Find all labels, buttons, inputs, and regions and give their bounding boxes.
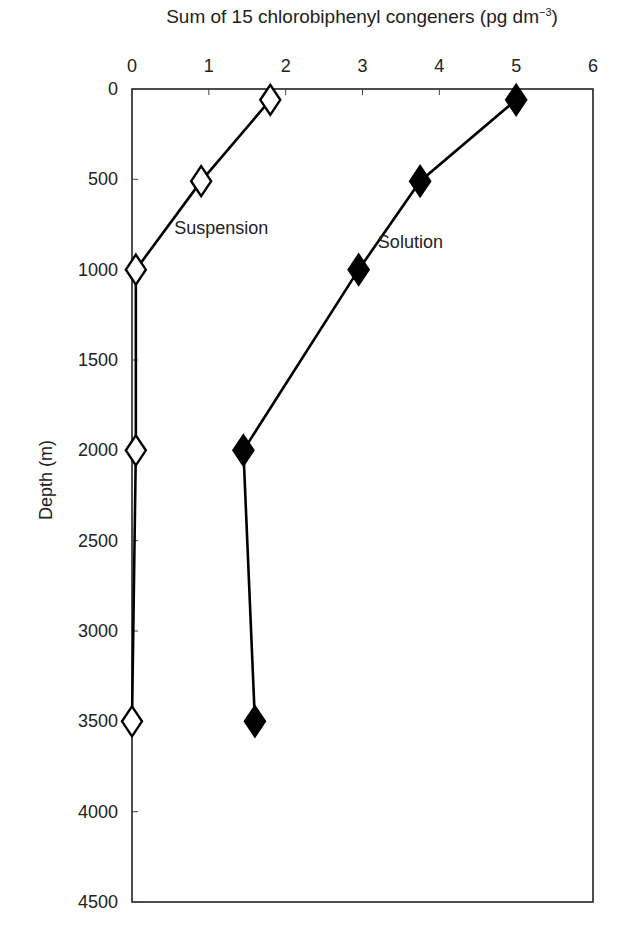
- plot-frame: [132, 89, 593, 902]
- open-diamond-marker: [126, 435, 146, 465]
- series-label: Suspension: [174, 218, 268, 238]
- series-label: Solution: [378, 232, 443, 252]
- x-tick-label: 5: [511, 56, 521, 76]
- series-suspension: Suspension: [122, 85, 280, 736]
- y-tick-label: 3500: [78, 711, 118, 731]
- y-tick-label: 4000: [78, 802, 118, 822]
- x-tick-label: 2: [281, 56, 291, 76]
- y-tick-label: 1500: [78, 350, 118, 370]
- axes: 0123456050010001500200025003000350040004…: [78, 56, 598, 912]
- y-tick-label: 2500: [78, 531, 118, 551]
- x-tick-label: 4: [434, 56, 444, 76]
- y-tick-label: 500: [88, 169, 118, 189]
- x-tick-label: 3: [357, 56, 367, 76]
- y-tick-label: 2000: [78, 440, 118, 460]
- open-diamond-marker: [122, 706, 142, 736]
- x-tick-label: 0: [127, 56, 137, 76]
- filled-diamond-marker: [245, 706, 265, 736]
- y-tick-label: 0: [108, 79, 118, 99]
- x-tick-label: 6: [588, 56, 598, 76]
- chart-canvas: 0123456050010001500200025003000350040004…: [0, 0, 629, 940]
- series-line: [243, 100, 516, 721]
- series-layer: SuspensionSolution: [122, 85, 526, 736]
- series-solution: Solution: [233, 85, 526, 736]
- y-tick-label: 3000: [78, 621, 118, 641]
- y-tick-label: 1000: [78, 260, 118, 280]
- y-tick-label: 4500: [78, 892, 118, 912]
- x-tick-label: 1: [204, 56, 214, 76]
